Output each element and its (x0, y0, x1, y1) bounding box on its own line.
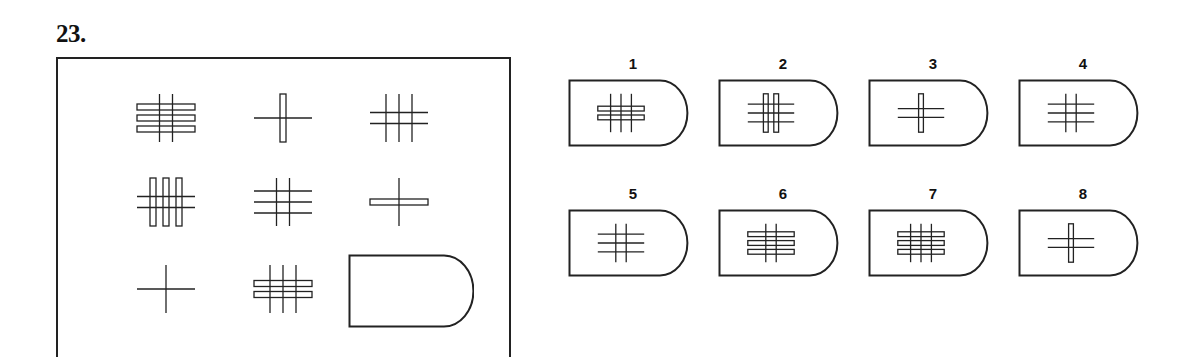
grid-figure-icon (248, 174, 318, 230)
option-tab-figure-icon (718, 209, 840, 277)
matrix-cell-r1c3 (364, 90, 434, 146)
option-8[interactable]: 8 (1018, 185, 1148, 275)
matrix-cell-r3c2 (248, 261, 318, 317)
matrix-cell-r3c1 (131, 261, 201, 317)
matrix-cell-r2c1 (131, 174, 201, 230)
option-figure (718, 79, 840, 147)
option-label: 4 (1018, 55, 1148, 72)
matrix-cell-r1c1 (131, 90, 201, 146)
option-label: 5 (568, 185, 698, 202)
grid-figure-icon (131, 174, 201, 230)
grid-figure-icon (131, 261, 201, 317)
option-tab-figure-icon (568, 79, 690, 147)
option-4[interactable]: 4 (1018, 55, 1148, 145)
option-tab-figure-icon (568, 209, 690, 277)
option-tab-figure-icon (868, 209, 990, 277)
blank-answer-cell (348, 254, 474, 332)
rounded-tab-shape-icon (348, 254, 474, 328)
option-1[interactable]: 1 (568, 55, 698, 145)
grid-figure-icon (364, 90, 434, 146)
option-6[interactable]: 6 (718, 185, 848, 275)
option-tab-figure-icon (718, 79, 840, 147)
option-7[interactable]: 7 (868, 185, 998, 275)
option-3[interactable]: 3 (868, 55, 998, 145)
option-tab-figure-icon (1018, 79, 1140, 147)
option-figure (718, 209, 840, 277)
option-label: 8 (1018, 185, 1148, 202)
option-label: 7 (868, 185, 998, 202)
option-label: 6 (718, 185, 848, 202)
matrix-cell-r2c2 (248, 174, 318, 230)
grid-figure-icon (364, 174, 434, 230)
option-tab-figure-icon (868, 79, 990, 147)
matrix-cell-r1c2 (248, 90, 318, 146)
option-figure (1018, 209, 1140, 277)
option-figure (868, 209, 990, 277)
option-figure (868, 79, 990, 147)
option-tab-figure-icon (1018, 209, 1140, 277)
grid-figure-icon (248, 90, 318, 146)
option-label: 3 (868, 55, 998, 72)
option-figure (1018, 79, 1140, 147)
option-5[interactable]: 5 (568, 185, 698, 275)
option-label: 1 (568, 55, 698, 72)
option-2[interactable]: 2 (718, 55, 848, 145)
option-label: 2 (718, 55, 848, 72)
grid-figure-icon (248, 261, 318, 317)
option-figure (568, 79, 690, 147)
option-figure (568, 209, 690, 277)
grid-figure-icon (131, 90, 201, 146)
question-number: 23. (56, 20, 86, 48)
matrix-cell-r2c3 (364, 174, 434, 230)
